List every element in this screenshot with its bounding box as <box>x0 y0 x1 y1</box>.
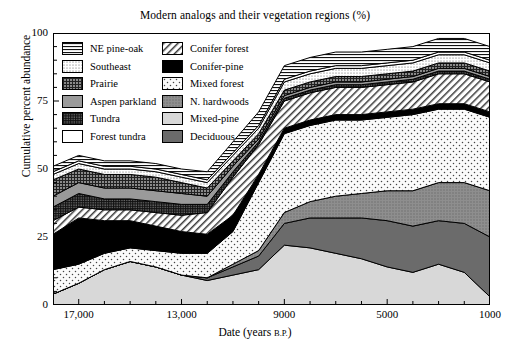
legend-item-ne-pine-oak[interactable]: NE pine-oak <box>62 40 156 58</box>
y-tick-label: 75 <box>14 94 48 106</box>
x-tick-label: 13,000 <box>152 308 212 320</box>
legend-item-conifer-pine[interactable]: Conifer-pine <box>162 58 249 76</box>
legend-swatch-diagonal-hatch-icon <box>162 42 183 55</box>
x-tick-label: 1000 <box>460 308 510 320</box>
legend-item-mixed-forest[interactable]: Mixed forest <box>162 75 249 93</box>
legend-label: NE pine-oak <box>90 43 143 54</box>
legend-swatch-solid-gray-icon <box>62 95 83 108</box>
legend-label: Conifer-pine <box>190 61 243 72</box>
x-axis-label-text: Date (years <box>218 326 274 338</box>
x-axis-label-tail: ) <box>288 326 292 338</box>
chart-figure: Modern analogs and their vegetation regi… <box>0 0 510 349</box>
x-tick-label: 9000 <box>254 308 314 320</box>
legend-label: Prairie <box>90 78 118 89</box>
legend-label: Conifer forest <box>190 43 249 54</box>
legend-column-2: Conifer forestConifer-pineMixed forestN.… <box>162 40 249 145</box>
legend-label: Tundra <box>90 113 120 124</box>
legend-swatch-medium-gray-textured-icon <box>162 95 183 108</box>
legend-label: N. hardwoods <box>190 96 249 107</box>
legend-item-n-hardwoods[interactable]: N. hardwoods <box>162 93 249 111</box>
y-tick-label: 100 <box>14 26 48 38</box>
legend-swatch-dark-gray-icon <box>162 130 183 143</box>
legend-label: Mixed forest <box>190 78 244 89</box>
legend-column-1: NE pine-oakSoutheastPrairieAspen parklan… <box>62 40 156 145</box>
legend-swatch-fine-dots-icon <box>62 60 83 73</box>
legend-label: Mixed-pine <box>190 113 239 124</box>
legend-label: Aspen parkland <box>90 96 156 107</box>
legend-item-prairie[interactable]: Prairie <box>62 75 156 93</box>
y-tick-label: 50 <box>14 162 48 174</box>
legend-swatch-crosshatch-dark-icon <box>62 77 83 90</box>
legend-item-mixed-pine[interactable]: Mixed-pine <box>162 110 249 128</box>
legend-label: Deciduous <box>190 131 235 142</box>
legend-item-deciduous[interactable]: Deciduous <box>162 128 249 146</box>
legend-swatch-white-icon <box>62 130 83 143</box>
chart-title: Modern analogs and their vegetation regi… <box>0 9 510 21</box>
legend-item-southeast[interactable]: Southeast <box>62 58 156 76</box>
legend-label: Forest tundra <box>90 131 146 142</box>
legend-swatch-dense-grid-dark-icon <box>62 112 83 125</box>
legend-swatch-light-gray-icon <box>162 112 183 125</box>
legend-item-tundra[interactable]: Tundra <box>62 110 156 128</box>
x-axis-label-bp: B.P. <box>274 328 288 338</box>
legend-swatch-sparse-dots-icon <box>162 77 183 90</box>
legend-swatch-solid-black-icon <box>162 60 183 73</box>
legend-label: Southeast <box>90 61 131 72</box>
legend-item-forest-tundra[interactable]: Forest tundra <box>62 128 156 146</box>
x-tick-label: 17,000 <box>49 308 109 320</box>
legend-swatch-horizontal-lines-icon <box>62 42 83 55</box>
x-tick-label: 5000 <box>357 308 417 320</box>
x-axis-label: Date (years B.P.) <box>0 326 510 338</box>
legend-item-conifer-forest[interactable]: Conifer forest <box>162 40 249 58</box>
y-tick-label: 0 <box>14 298 48 310</box>
y-tick-label: 25 <box>14 230 48 242</box>
legend-item-aspen-parkland[interactable]: Aspen parkland <box>62 93 156 111</box>
